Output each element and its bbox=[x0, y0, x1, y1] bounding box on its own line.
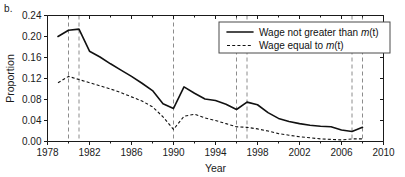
chart-plot: 0.000.040.080.120.160.200.24197819821986… bbox=[0, 0, 405, 177]
x-tick-label-6: 2002 bbox=[288, 147, 311, 158]
x-tick-label-3: 1990 bbox=[162, 147, 185, 158]
y-axis-title: Proportion bbox=[4, 54, 16, 103]
series-line-2 bbox=[58, 76, 363, 140]
x-axis-title: Year bbox=[205, 162, 227, 174]
y-tick-label-3: 0.12 bbox=[22, 73, 42, 84]
x-tick-label-4: 1994 bbox=[204, 147, 227, 158]
y-tick-label-1: 0.04 bbox=[22, 115, 42, 126]
x-tick-label-2: 1986 bbox=[120, 147, 143, 158]
legend-label-1: Wage not greater than m(t) bbox=[259, 27, 379, 38]
x-tick-label-8: 2010 bbox=[372, 147, 395, 158]
x-tick-label-0: 1978 bbox=[36, 147, 59, 158]
y-tick-label-5: 0.20 bbox=[22, 31, 42, 42]
y-tick-label-4: 0.16 bbox=[22, 52, 42, 63]
x-tick-label-5: 1998 bbox=[246, 147, 269, 158]
x-tick-label-7: 2006 bbox=[330, 147, 353, 158]
y-tick-label-0: 0.00 bbox=[22, 136, 42, 147]
legend-label-2: Wage equal to m(t) bbox=[259, 40, 344, 51]
figure-panel-b: b. 0.000.040.080.120.160.200.24197819821… bbox=[0, 0, 405, 177]
y-tick-label-2: 0.08 bbox=[22, 94, 42, 105]
x-tick-label-1: 1982 bbox=[78, 147, 101, 158]
y-tick-label-6: 0.24 bbox=[22, 10, 42, 21]
